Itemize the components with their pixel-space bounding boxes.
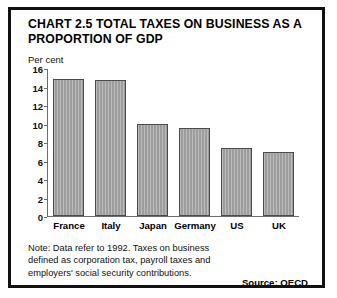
y-axis-tick-mark <box>44 69 47 70</box>
bar-italy <box>95 80 126 216</box>
bar-germany <box>179 128 210 216</box>
chart-title: CHART 2.5 TOTAL TAXES ON BUSINESS AS A P… <box>28 17 304 46</box>
y-axis-tick-label: 2 <box>38 193 43 204</box>
bar-series <box>48 69 299 216</box>
x-axis-label-germany: Germany <box>174 220 216 231</box>
y-axis-tick-mark <box>44 106 47 107</box>
y-axis-tick-label: 0 <box>38 212 43 223</box>
bar-slot <box>48 69 90 216</box>
y-axis-tick-mark <box>44 88 47 89</box>
bar-japan <box>137 124 168 217</box>
y-axis-tick-label: 4 <box>38 175 43 186</box>
bar-us <box>221 148 252 216</box>
x-axis-label-us: US <box>216 220 258 231</box>
chart-source: Source: OECD <box>242 277 308 288</box>
y-axis-tick-label: 14 <box>32 82 43 93</box>
y-axis-tick-mark <box>44 125 47 126</box>
y-axis-tick-mark <box>44 180 47 181</box>
bar-france <box>53 79 84 216</box>
y-axis-tick-label: 16 <box>32 64 43 75</box>
y-axis-tick-label: 12 <box>32 101 43 112</box>
y-axis-tick-mark <box>44 143 47 144</box>
x-axis-labels: FranceItalyJapanGermanyUSUK <box>48 220 300 231</box>
bar-uk <box>263 152 294 216</box>
chart-figure: CHART 2.5 TOTAL TAXES ON BUSINESS AS A P… <box>8 7 325 288</box>
y-axis-tick-mark <box>44 162 47 163</box>
bar-slot <box>173 69 215 216</box>
plot-area: 0246810121416 <box>47 69 299 217</box>
x-axis-label-france: France <box>48 220 90 231</box>
x-axis-label-italy: Italy <box>90 220 132 231</box>
y-axis-tick-label: 10 <box>32 119 43 130</box>
bar-slot <box>215 69 257 216</box>
x-axis-label-japan: Japan <box>132 220 174 231</box>
bar-slot <box>132 69 174 216</box>
y-axis-tick-label: 8 <box>38 138 43 149</box>
x-axis-label-uk: UK <box>258 220 300 231</box>
bar-slot <box>257 69 299 216</box>
bar-slot <box>90 69 132 216</box>
chart-note: Note: Data refer to 1992. Taxes on busin… <box>28 242 228 279</box>
x-axis-line <box>47 216 299 217</box>
y-axis-tick-mark <box>44 217 47 218</box>
y-axis-tick-mark <box>44 199 47 200</box>
y-axis-tick-label: 6 <box>38 156 43 167</box>
